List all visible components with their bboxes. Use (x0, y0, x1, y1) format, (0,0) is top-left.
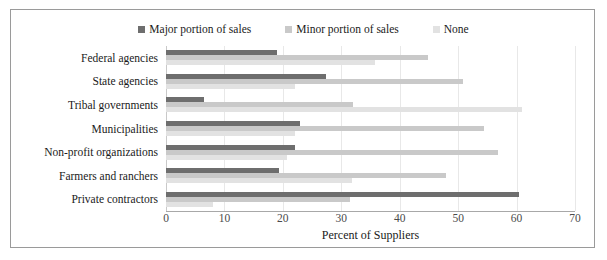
bar[interactable] (166, 60, 375, 65)
plot-area: Federal agenciesState agenciesTribal gov… (11, 46, 596, 211)
bar-row (166, 202, 596, 207)
x-tick-label: 60 (511, 212, 523, 224)
legend-entry[interactable]: None (433, 24, 469, 36)
x-tick-label: 40 (394, 212, 406, 224)
category-label: Federal agencies (11, 46, 166, 70)
legend-entry[interactable]: Major portion of sales (138, 24, 251, 36)
legend-swatch-icon (138, 26, 145, 33)
legend-label: None (444, 24, 469, 36)
bar-row (166, 84, 596, 89)
bar[interactable] (166, 84, 295, 89)
bar[interactable] (166, 131, 295, 136)
bar-row (166, 60, 596, 65)
x-tick-label: 70 (569, 212, 581, 224)
bar-groups (166, 46, 596, 211)
category-label: Tribal governments (11, 93, 166, 117)
x-tick-label: 30 (336, 212, 348, 224)
bar[interactable] (166, 155, 287, 160)
chart-container: Major portion of salesMinor portion of s… (10, 9, 595, 248)
x-axis-ticks: 010203040506070 (166, 212, 575, 228)
legend-label: Major portion of sales (149, 24, 251, 36)
x-tick-label: 50 (452, 212, 464, 224)
category-label: Municipalities (11, 117, 166, 141)
legend-swatch-icon (285, 26, 292, 33)
category-label: Non-profit organizations (11, 140, 166, 164)
bar-row (166, 155, 596, 160)
bar-group (166, 70, 596, 94)
bar-row (166, 131, 596, 136)
bar-group (166, 93, 596, 117)
bar[interactable] (166, 107, 522, 112)
bar-row (166, 178, 596, 183)
category-label: Private contractors (11, 187, 166, 211)
legend-swatch-icon (433, 26, 440, 33)
legend-label: Minor portion of sales (296, 24, 399, 36)
bar-group (166, 187, 596, 211)
bar-group (166, 46, 596, 70)
bar-group (166, 164, 596, 188)
x-tick-label: 20 (277, 212, 289, 224)
x-tick-label: 0 (163, 212, 169, 224)
category-label: Farmers and ranchers (11, 164, 166, 188)
x-axis-title: Percent of Suppliers (166, 228, 575, 243)
bar[interactable] (166, 202, 213, 207)
bar-group (166, 140, 596, 164)
x-tick-label: 10 (219, 212, 231, 224)
bar-group (166, 117, 596, 141)
bar-row (166, 107, 596, 112)
chart-legend: Major portion of salesMinor portion of s… (11, 24, 596, 36)
legend-entry[interactable]: Minor portion of sales (285, 24, 399, 36)
bars-region (166, 46, 596, 211)
bar[interactable] (166, 178, 352, 183)
category-label: State agencies (11, 70, 166, 94)
category-axis: Federal agenciesState agenciesTribal gov… (11, 46, 166, 211)
